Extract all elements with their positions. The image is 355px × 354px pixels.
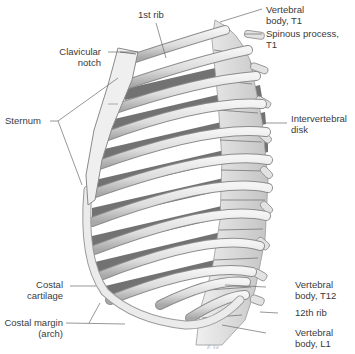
label-line: body, L1 bbox=[295, 338, 333, 349]
label-vertebral-body-t1: Vertebral body, T1 bbox=[266, 4, 304, 26]
label-line: Costal bbox=[27, 279, 63, 290]
label-spinous-process-t1: Spinous process, T1 bbox=[266, 28, 339, 50]
label-line: disk bbox=[291, 124, 347, 135]
label-intervertebral-disk: Intervertebral disk bbox=[291, 113, 347, 135]
artist-signature: F. Ve bbox=[207, 344, 219, 350]
label-clavicular-notch: Clavicular notch bbox=[59, 46, 101, 68]
label-first-rib: 1st rib bbox=[138, 9, 164, 20]
label-line: notch bbox=[59, 57, 101, 68]
label-line: T1 bbox=[266, 39, 339, 50]
label-line: body, T12 bbox=[295, 290, 336, 301]
label-vertebral-body-t12: Vertebral body, T12 bbox=[295, 279, 336, 301]
label-line: Vertebral bbox=[295, 279, 336, 290]
label-line: cartilage bbox=[27, 290, 63, 301]
label-line: Clavicular bbox=[59, 46, 101, 57]
label-line: Vertebral bbox=[295, 327, 333, 338]
label-line: Costal margin bbox=[4, 317, 63, 328]
label-12th-rib: 12th rib bbox=[295, 307, 327, 318]
label-vertebral-body-l1: Vertebral body, L1 bbox=[295, 327, 333, 349]
rib-cage-diagram: 1st rib Vertebral body, T1 Spinous proce… bbox=[0, 0, 355, 354]
label-line: Spinous process, bbox=[266, 28, 339, 39]
label-sternum: Sternum bbox=[5, 115, 41, 126]
label-line: Vertebral bbox=[266, 4, 304, 15]
label-line: body, T1 bbox=[266, 15, 304, 26]
label-costal-margin: Costal margin (arch) bbox=[4, 317, 63, 339]
label-line: Intervertebral bbox=[291, 113, 347, 124]
label-costal-cartilage: Costal cartilage bbox=[27, 279, 63, 301]
label-line: (arch) bbox=[4, 328, 63, 339]
